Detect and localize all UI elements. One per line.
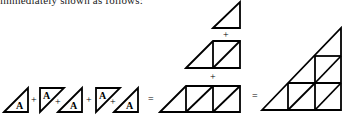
result-diag-3 [315,56,341,83]
equals-sign-1: = [148,93,154,104]
result-triangle [262,28,341,110]
label-a: A [99,90,107,101]
label-a: A [126,100,134,111]
row3-diagonal-1 [186,86,213,112]
middle-rows: + + [160,2,240,112]
plus-sign: + [223,29,229,40]
left-terms: A + A + A + A + A [4,88,138,112]
label-a: A [70,100,78,111]
plus-sign: + [31,94,37,105]
result-diag-2 [315,83,341,110]
equals-sign-2: = [252,90,258,101]
plus-sign: + [210,71,216,82]
label-a: A [16,100,24,111]
triangle-sum-diagram: A + A + A + A + A = + + = [0,0,343,124]
row3-diagonal-2 [213,86,240,112]
plus-sign: + [110,96,116,107]
label-a: A [43,90,51,101]
plus-sign: + [55,96,61,107]
result-diag-1 [288,83,315,110]
row2-diagonal [213,41,240,68]
plus-sign: + [86,94,92,105]
row1-triangle [213,2,240,28]
